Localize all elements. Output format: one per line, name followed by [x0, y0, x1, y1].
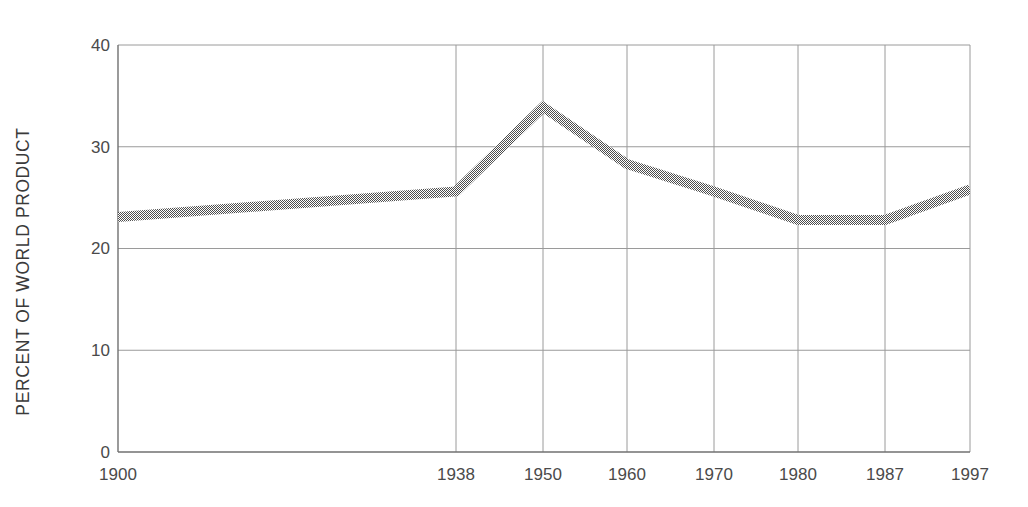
horizontal-gridlines: [118, 45, 970, 350]
series-path: [118, 107, 970, 220]
data-series-line: [118, 107, 970, 220]
plot-area: [0, 0, 1028, 507]
chart-figure: PERCENT OF WORLD PRODUCT 40 30 20 10 0 1…: [0, 0, 1028, 507]
